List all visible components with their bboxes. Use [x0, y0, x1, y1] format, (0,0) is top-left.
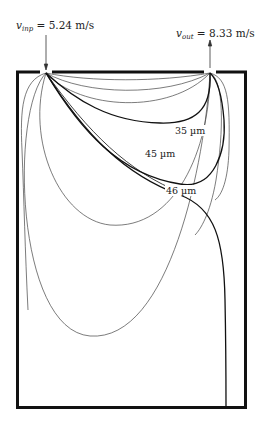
trajectory [46, 73, 210, 80]
label-46um: 46 µm [165, 185, 197, 196]
trajectory [46, 73, 210, 103]
trajectories-labelled [46, 73, 226, 407]
inlet-velocity-value: = 5.24 m/s [37, 19, 95, 31]
inlet-arrowhead [44, 64, 47, 70]
trajectory-46um-b [46, 73, 182, 193]
trajectory [40, 73, 210, 225]
inlet-velocity-label: vinp = 5.24 m/s [16, 19, 94, 33]
trajectory-46um [46, 73, 226, 407]
outlet-velocity-subscript: out [182, 33, 194, 41]
outlet-velocity-label: vout = 8.33 m/s [176, 27, 255, 41]
trajectory [21, 73, 46, 310]
label-45um: 45 µm [144, 148, 176, 159]
trajectory [46, 73, 210, 90]
wall-top-left [18, 72, 246, 408]
chamber-walls [18, 72, 246, 408]
inlet-velocity-subscript: inp [22, 25, 33, 33]
chamber-diagram [0, 0, 263, 427]
outlet-velocity-value: = 8.33 m/s [197, 27, 255, 39]
trajectory [24, 73, 210, 336]
label-35um: 35 µm [174, 125, 206, 136]
trajectory-35um [46, 73, 210, 123]
